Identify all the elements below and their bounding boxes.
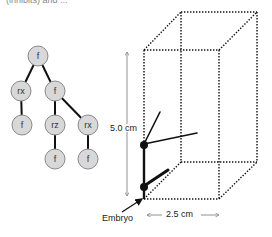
tree-node: f [45,81,65,101]
embryo-pointer-arrow [122,199,142,212]
tree-node-label: rx [17,86,25,96]
embryo-label: Embryo [102,214,133,223]
tree-node: rz [45,115,65,135]
tree-edges [21,56,88,159]
plant-structure [140,112,197,198]
growth-box [144,12,257,199]
tree-node: rx [78,115,98,135]
tree-node: rx [11,81,31,101]
tree-node-label: rz [51,120,59,130]
tree-node-label: rx [84,120,92,130]
tree-node: f [28,46,48,66]
tree-node: f [12,115,32,135]
height-label: 5.0 cm [110,124,137,133]
width-label: 2.5 cm [166,210,193,219]
tree-node: f [78,149,98,169]
diagram-canvas: frxffrzrxff [0,0,272,237]
tree-node: f [45,149,65,169]
